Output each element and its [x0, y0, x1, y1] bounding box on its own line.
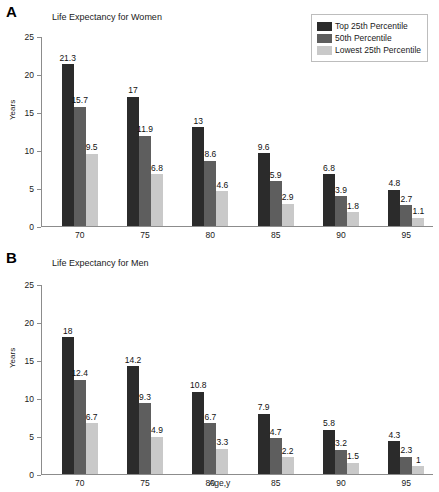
bar-value-label: 3.9: [335, 186, 347, 195]
bar-value-label: 1.8: [347, 202, 359, 211]
legend-item[interactable]: Top 25th Percentile: [317, 20, 421, 32]
legend: Top 25th Percentile50th PercentileLowest…: [311, 14, 428, 62]
bar-slot: 2.9: [282, 36, 294, 226]
bar-group: 4.82.71.195: [388, 36, 424, 226]
bar-group: 5.83.21.590: [323, 284, 359, 474]
bar-value-label: 18: [63, 327, 72, 336]
y-axis-tick: [37, 113, 41, 114]
bar[interactable]: [151, 174, 163, 226]
bar-value-label: 8.6: [204, 150, 216, 159]
y-axis-tick-label: 25: [25, 280, 34, 290]
bar[interactable]: [192, 392, 204, 474]
bar[interactable]: [258, 414, 270, 474]
bar-slot: 3.3: [216, 284, 228, 474]
y-axis-tick: [37, 285, 41, 286]
bar-value-label: 6.7: [86, 413, 98, 422]
panel-b-title: Life Expectancy for Men: [52, 258, 149, 268]
bar[interactable]: [347, 463, 359, 474]
bar[interactable]: [400, 205, 412, 226]
bar[interactable]: [62, 337, 74, 474]
bar-value-label: 7.9: [258, 403, 270, 412]
bar-group: 10.86.73.380: [192, 284, 228, 474]
bar[interactable]: [388, 190, 400, 226]
bar-group-bars: 1812.46.7: [62, 284, 98, 474]
bar[interactable]: [335, 196, 347, 226]
bar[interactable]: [86, 154, 98, 226]
bar[interactable]: [282, 457, 294, 474]
y-axis-tick-label: 5: [29, 432, 34, 442]
bar[interactable]: [151, 437, 163, 474]
bar[interactable]: [400, 457, 412, 474]
bar-slot: 7.9: [258, 284, 270, 474]
bar-group-bars: 4.82.71.1: [388, 36, 424, 226]
bar[interactable]: [347, 212, 359, 226]
panel-b-y-axis-title: Years: [8, 348, 17, 368]
bar[interactable]: [258, 153, 270, 226]
legend-item[interactable]: Lowest 25th Percentile: [317, 44, 421, 56]
bar-value-label: 5.9: [270, 171, 282, 180]
bar-value-label: 1.5: [347, 452, 359, 461]
bar-value-label: 6.7: [204, 413, 216, 422]
bar-slot: 6.8: [323, 36, 335, 226]
bar[interactable]: [270, 181, 282, 226]
bar-slot: 1: [412, 284, 424, 474]
bar-value-label: 13: [194, 117, 203, 126]
bar[interactable]: [216, 449, 228, 474]
bar[interactable]: [62, 64, 74, 226]
bar[interactable]: [335, 450, 347, 474]
bar[interactable]: [323, 174, 335, 226]
bar-value-label: 17: [128, 86, 137, 95]
legend-label: Lowest 25th Percentile: [335, 45, 421, 55]
bar[interactable]: [74, 380, 86, 474]
bar-group: 6.83.91.890: [323, 36, 359, 226]
bar[interactable]: [139, 403, 151, 474]
y-axis-tick-label: 0: [29, 222, 34, 232]
bar[interactable]: [412, 218, 424, 226]
x-axis-tick-label: 95: [388, 230, 424, 240]
bar-value-label: 9.3: [139, 393, 151, 402]
bar[interactable]: [86, 423, 98, 474]
x-axis-tick-label: 85: [258, 230, 294, 240]
bar[interactable]: [127, 97, 139, 226]
y-axis-tick-label: 15: [25, 108, 34, 118]
y-axis-tick-label: 5: [29, 184, 34, 194]
bar-value-label: 6.8: [323, 164, 335, 173]
bar-value-label: 4.9: [151, 426, 163, 435]
bar[interactable]: [270, 438, 282, 474]
y-axis-tick-label: 20: [25, 70, 34, 80]
y-axis-tick: [37, 323, 41, 324]
bar-group-bars: 14.29.34.9: [127, 284, 163, 474]
figure-life-expectancy: A Life Expectancy for Women Years 051015…: [0, 0, 439, 492]
bar-group-bars: 9.65.92.9: [258, 36, 294, 226]
legend-item[interactable]: 50th Percentile: [317, 32, 421, 44]
bar[interactable]: [204, 161, 216, 226]
bar[interactable]: [204, 423, 216, 474]
bar-value-label: 4.6: [216, 181, 228, 190]
y-axis-tick: [37, 151, 41, 152]
x-axis-tick-label: 75: [127, 230, 163, 240]
bar[interactable]: [412, 466, 424, 474]
bar[interactable]: [282, 204, 294, 226]
bar[interactable]: [323, 430, 335, 474]
bar-value-label: 1.1: [412, 207, 424, 216]
y-axis-tick: [37, 227, 41, 228]
bar-slot: 18: [62, 284, 74, 474]
x-axis-tick-label: 80: [192, 230, 228, 240]
bar[interactable]: [192, 127, 204, 226]
bar-slot: 5.9: [270, 36, 282, 226]
bar-slot: 4.6: [216, 36, 228, 226]
y-axis-tick-label: 10: [25, 146, 34, 156]
bar-slot: 12.4: [74, 284, 86, 474]
bar-group: 1812.46.770: [62, 284, 98, 474]
bar-group: 1711.96.875: [127, 36, 163, 226]
bar-value-label: 4.7: [270, 428, 282, 437]
bar-group: 7.94.72.285: [258, 284, 294, 474]
bar-value-label: 9.6: [258, 143, 270, 152]
x-axis-tick-label: 90: [323, 230, 359, 240]
bar[interactable]: [127, 366, 139, 474]
bar[interactable]: [216, 191, 228, 226]
bar[interactable]: [388, 441, 400, 474]
y-axis-tick-label: 15: [25, 356, 34, 366]
bar[interactable]: [139, 136, 151, 226]
bar[interactable]: [74, 107, 86, 226]
